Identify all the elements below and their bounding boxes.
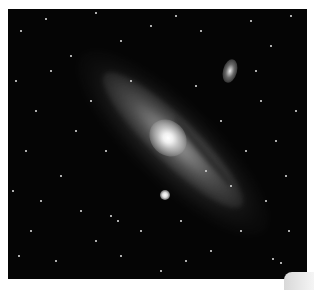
star xyxy=(117,220,119,222)
star xyxy=(130,80,132,82)
star xyxy=(255,70,257,72)
star xyxy=(150,25,152,27)
star xyxy=(272,258,274,260)
star xyxy=(265,200,267,202)
star xyxy=(95,240,97,242)
star xyxy=(35,110,37,112)
star xyxy=(245,150,247,152)
star xyxy=(25,150,27,152)
star xyxy=(18,255,20,257)
star xyxy=(20,30,22,32)
star xyxy=(230,185,232,187)
star xyxy=(15,80,17,82)
star xyxy=(160,270,162,272)
star xyxy=(120,40,122,42)
star xyxy=(175,15,177,17)
star xyxy=(240,230,242,232)
star xyxy=(275,140,277,142)
star xyxy=(110,215,112,217)
star xyxy=(180,220,182,222)
star xyxy=(90,100,92,102)
star xyxy=(288,230,290,232)
star xyxy=(295,110,297,112)
star xyxy=(210,250,212,252)
star xyxy=(205,170,207,172)
star xyxy=(260,100,262,102)
star xyxy=(250,20,252,22)
star xyxy=(105,150,107,152)
star xyxy=(280,262,282,264)
star xyxy=(195,85,197,87)
star xyxy=(285,175,287,177)
star xyxy=(75,130,77,132)
star xyxy=(220,120,222,122)
star xyxy=(80,210,82,212)
star xyxy=(200,30,202,32)
star xyxy=(95,12,97,14)
star xyxy=(40,200,42,202)
star xyxy=(50,70,52,72)
page-curl xyxy=(284,272,314,290)
star xyxy=(30,230,32,232)
satellite-galaxy xyxy=(220,58,240,85)
star xyxy=(55,260,57,262)
star xyxy=(270,45,272,47)
star xyxy=(12,190,14,192)
star xyxy=(140,230,142,232)
foreground-star xyxy=(160,190,170,200)
star xyxy=(120,255,122,257)
star xyxy=(290,15,292,17)
star xyxy=(60,175,62,177)
star xyxy=(70,55,72,57)
galaxy-photo xyxy=(8,9,307,279)
star xyxy=(185,260,187,262)
star xyxy=(45,18,47,20)
